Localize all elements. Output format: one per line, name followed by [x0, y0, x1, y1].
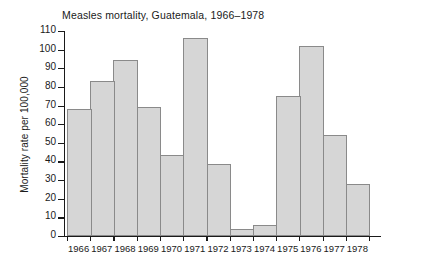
y-tick-mark: [58, 31, 64, 32]
x-tick-mark: [323, 236, 324, 241]
y-tick-label: 50: [45, 136, 56, 147]
y-tick-mark: [58, 199, 64, 200]
x-tick-mark: [113, 236, 114, 241]
y-tick-mark: [58, 161, 64, 162]
y-tick-mark: [58, 217, 64, 218]
x-tick-label: 1973: [230, 243, 253, 254]
bar: [183, 38, 208, 236]
y-tick-mark: [58, 124, 64, 125]
bar: [137, 107, 162, 236]
y-tick-label: 70: [45, 99, 56, 110]
x-tick-mark: [299, 236, 300, 241]
x-tick-mark: [183, 236, 184, 241]
x-tick-mark: [253, 236, 254, 241]
y-tick-mark: [58, 106, 64, 107]
x-tick-label: 1975: [276, 243, 299, 254]
y-tick-label: 90: [45, 61, 56, 72]
x-tick-mark: [346, 236, 347, 241]
x-tick-label: 1967: [90, 243, 113, 254]
x-axis-tick-labels: 1966196719681969197019711972197319741975…: [64, 236, 381, 266]
x-tick-label: 1972: [206, 243, 229, 254]
x-tick-label: 1974: [253, 243, 276, 254]
bar: [299, 46, 324, 236]
y-tick-label: 20: [45, 192, 56, 203]
x-tick-label: 1970: [160, 243, 183, 254]
x-tick-mark: [160, 236, 161, 241]
y-tick-mark: [58, 143, 64, 144]
y-tick-mark: [58, 68, 64, 69]
x-tick-mark: [137, 236, 138, 241]
bar: [346, 184, 371, 236]
measles-mortality-bar-chart: Measles mortality, Guatemala, 1966–1978 …: [0, 0, 430, 268]
bar: [276, 96, 301, 236]
y-tick-mark: [58, 180, 64, 181]
y-tick-label: 60: [45, 117, 56, 128]
x-tick-label: 1969: [137, 243, 160, 254]
x-tick-mark: [206, 236, 207, 241]
y-tick-label: 80: [45, 80, 56, 91]
bar: [67, 109, 92, 236]
bar: [206, 164, 231, 236]
bar: [253, 225, 278, 236]
y-axis-label: Mortality rate per 100,000: [19, 35, 30, 235]
y-tick-mark: [58, 87, 64, 88]
x-tick-mark: [90, 236, 91, 241]
y-tick-label: 0: [50, 229, 56, 240]
x-tick-mark: [67, 236, 68, 241]
chart-title: Measles mortality, Guatemala, 1966–1978: [62, 9, 264, 21]
bar: [323, 135, 348, 236]
x-tick-mark: [369, 236, 370, 241]
y-tick-label: 40: [45, 154, 56, 165]
y-tick-label: 10: [45, 210, 56, 221]
y-tick-mark: [58, 50, 64, 51]
x-tick-label: 1977: [323, 243, 346, 254]
x-tick-label: 1971: [183, 243, 206, 254]
x-tick-label: 1978: [346, 243, 369, 254]
bar: [230, 229, 255, 236]
x-tick-mark: [230, 236, 231, 241]
y-tick-label: 30: [45, 173, 56, 184]
x-tick-label: 1968: [113, 243, 136, 254]
plot-area: 0102030405060708090100110: [64, 31, 381, 236]
y-tick-label: 110: [40, 24, 56, 35]
x-tick-label: 1976: [299, 243, 322, 254]
y-tick-label: 100: [39, 43, 56, 54]
bar: [113, 60, 138, 236]
x-tick-mark: [276, 236, 277, 241]
bar: [160, 155, 185, 236]
x-tick-label: 1966: [67, 243, 90, 254]
bar: [90, 81, 115, 236]
